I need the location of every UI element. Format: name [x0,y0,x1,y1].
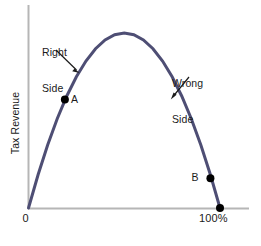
x-axis-origin-tick-label: 0 [23,212,29,225]
data-point-b-marker [206,174,214,182]
right-side-annotation: Right Side [42,22,67,119]
x-axis-max-tick-label: 100% [199,212,228,225]
right-side-annotation-line1: Right [42,46,67,58]
data-point-b-label: B [191,171,198,183]
y-axis-label: Tax Revenue [9,0,23,246]
chart-canvas [0,0,261,246]
data-point-a-label: A [71,93,78,105]
right-side-annotation-line2: Side [42,82,67,94]
wrong-side-annotation-line1: Wrong [172,77,203,89]
wrong-side-annotation-line2: Side [172,113,203,125]
laffer-curve-figure: Tax Revenue 0 100% Right Side Wrong Side… [0,0,261,246]
wrong-side-annotation: Wrong Side [172,53,203,150]
data-point-endpoint-marker [216,204,224,212]
